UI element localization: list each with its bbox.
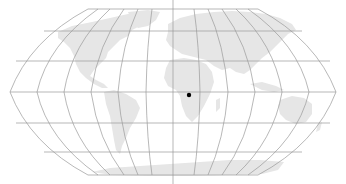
location-marker[interactable] (187, 93, 191, 97)
world-map (0, 0, 346, 184)
madagascar (216, 98, 220, 112)
land-masses (58, 10, 322, 176)
africa (164, 58, 214, 122)
graticule (10, 0, 336, 184)
antarctica (92, 160, 284, 176)
